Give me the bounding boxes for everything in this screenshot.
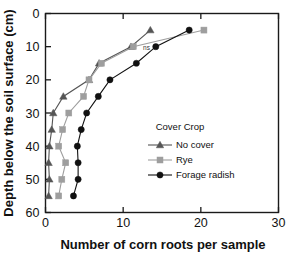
data-point-square [157, 157, 163, 163]
y-tick-label: 60 [26, 206, 40, 220]
chart-figure: 0102030 0102030405060 Number of corn roo… [0, 0, 291, 255]
y-axis-ticks [46, 14, 52, 213]
data-point-circle [186, 27, 192, 33]
y-tick-label: 50 [26, 173, 40, 187]
data-point-triangle [48, 126, 55, 132]
data-point-circle [107, 77, 113, 83]
y-axis-title: Depth below the soil surface (cm) [1, 9, 16, 216]
data-point-square [81, 93, 87, 99]
data-point-square [56, 143, 62, 149]
data-point-circle [153, 44, 159, 50]
data-point-circle [84, 110, 90, 116]
data-point-circle [74, 143, 80, 149]
data-point-triangle [147, 26, 154, 32]
data-point-square [86, 77, 92, 83]
data-point-circle [133, 60, 139, 66]
legend-item-forage-radish[interactable]: Forage radish [148, 169, 235, 180]
data-point-square [59, 176, 65, 182]
y-tick-label: 10 [26, 40, 40, 54]
data-point-circle [75, 160, 81, 166]
x-tick-label: 0 [42, 216, 49, 230]
legend: Cover Crop No coverRyeForage radish [148, 121, 235, 180]
data-point-circle [95, 93, 101, 99]
x-axis-tick-labels: 0102030 [42, 216, 285, 230]
legend-label: Forage radish [176, 169, 235, 180]
legend-title: Cover Crop [156, 121, 205, 132]
legend-label: Rye [176, 154, 193, 165]
y-tick-label: 40 [26, 140, 40, 154]
legend-item-rye[interactable]: Rye [148, 154, 193, 165]
ns-annotation: ns [143, 44, 151, 51]
y-axis-tick-labels: 0102030405060 [26, 7, 40, 220]
legend-label: No cover [176, 139, 214, 150]
x-tick-label: 30 [272, 216, 286, 230]
series-no-cover [45, 26, 154, 198]
legend-entries: No coverRyeForage radish [148, 139, 235, 180]
y-tick-label: 20 [26, 73, 40, 87]
x-tick-label: 20 [194, 216, 208, 230]
y-tick-label: 30 [26, 107, 40, 121]
data-point-square [56, 193, 62, 199]
legend-item-no-cover[interactable]: No cover [148, 139, 214, 150]
data-point-circle [157, 172, 163, 178]
data-point-square [130, 44, 136, 50]
y-tick-label: 0 [33, 7, 40, 21]
data-point-circle [75, 176, 81, 182]
data-point-square [201, 27, 207, 33]
x-axis-title: Number of corn roots per sample [60, 237, 265, 252]
data-point-circle [70, 193, 76, 199]
x-tick-label: 10 [116, 216, 130, 230]
data-point-circle [78, 126, 84, 132]
annotation-layer: ns [143, 44, 151, 51]
root-depth-line-chart: 0102030 0102030405060 Number of corn roo… [0, 0, 291, 255]
data-point-square [63, 160, 69, 166]
data-point-square [60, 127, 66, 133]
data-point-triangle [60, 93, 67, 99]
series-forage-radish [70, 27, 192, 199]
series-line [73, 30, 189, 196]
data-point-square [66, 110, 72, 116]
data-point-square [98, 60, 104, 66]
